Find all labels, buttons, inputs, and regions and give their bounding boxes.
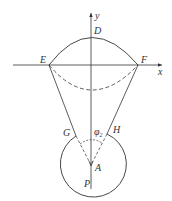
label-x: x (157, 66, 163, 77)
label-g: G (63, 127, 70, 138)
dashed-arc-ef (49, 65, 138, 90)
line-fh (107, 65, 138, 134)
circle-arc-gph (60, 134, 126, 197)
label-e: E (39, 54, 46, 65)
label-a: A (94, 162, 102, 173)
geometry-diagram: y x D E F G H A P φ2 (0, 0, 172, 201)
label-phi2: φ2 (94, 126, 103, 138)
label-y: y (94, 10, 100, 21)
dashed-ha (91, 134, 107, 165)
dashed-ga (76, 136, 91, 165)
label-f: F (140, 54, 148, 65)
label-d: D (93, 25, 102, 36)
label-p: P (83, 178, 90, 189)
label-h: H (112, 124, 121, 135)
arc-edf (49, 38, 138, 66)
line-eg (49, 65, 76, 136)
